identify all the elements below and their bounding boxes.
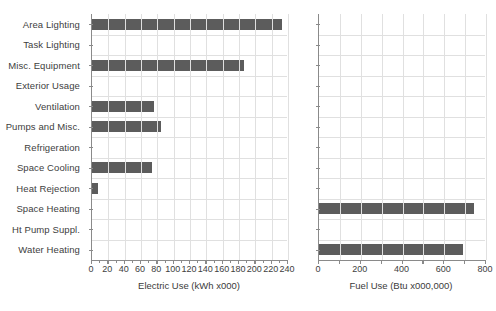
gridline-horizontal bbox=[92, 158, 287, 159]
axis-tick-label: 240 bbox=[279, 264, 294, 274]
electric-use-panel: Area LightingTask LightingMisc. Equipmen… bbox=[0, 0, 296, 311]
gridline-horizontal bbox=[92, 117, 287, 118]
gridline-horizontal bbox=[319, 240, 485, 241]
axis-tick-label: 400 bbox=[394, 264, 409, 274]
gridline-horizontal bbox=[92, 35, 287, 36]
category-tick bbox=[316, 188, 320, 189]
category-tick bbox=[316, 86, 320, 87]
plot-area-fuel bbox=[318, 14, 485, 260]
gridline-horizontal bbox=[319, 137, 485, 138]
gridline-horizontal bbox=[92, 178, 287, 179]
category-tick bbox=[89, 45, 93, 46]
category-tick bbox=[89, 127, 93, 128]
category-tick bbox=[89, 229, 93, 230]
gridline-horizontal bbox=[92, 76, 287, 77]
gridline-horizontal bbox=[92, 137, 287, 138]
category-tick bbox=[89, 250, 93, 251]
axis-tick-minor bbox=[132, 260, 133, 263]
bar bbox=[92, 19, 282, 30]
footer-strip bbox=[8, 301, 488, 311]
gridline-horizontal bbox=[319, 178, 485, 179]
axis-tick-label: 800 bbox=[477, 264, 492, 274]
axis-tick-label: 200 bbox=[247, 264, 262, 274]
category-tick bbox=[316, 106, 320, 107]
category-label: Space Heating bbox=[0, 199, 86, 220]
gridline-horizontal bbox=[319, 158, 485, 159]
category-tick bbox=[89, 86, 93, 87]
category-tick bbox=[316, 209, 320, 210]
axis-tick-minor bbox=[246, 260, 247, 263]
axis-tick-minor bbox=[279, 260, 280, 263]
axis-tick-minor bbox=[165, 260, 166, 263]
category-tick bbox=[316, 45, 320, 46]
gridline-horizontal bbox=[319, 35, 485, 36]
bar bbox=[92, 60, 244, 71]
axis-tick-minor bbox=[214, 260, 215, 263]
axis-title-electric: Electric Use (kWh x000) bbox=[138, 280, 240, 291]
bar bbox=[319, 203, 474, 214]
category-tick bbox=[316, 65, 320, 66]
gridline-horizontal bbox=[319, 55, 485, 56]
gridline-horizontal bbox=[319, 117, 485, 118]
axis-tick-label: 200 bbox=[352, 264, 367, 274]
axis-tick-label: 140 bbox=[198, 264, 213, 274]
axis-tick-label: 220 bbox=[263, 264, 278, 274]
axis-tick-label: 0 bbox=[88, 264, 93, 274]
axis-tick-label: 60 bbox=[135, 264, 145, 274]
axis-tick-label: 0 bbox=[315, 264, 320, 274]
axis-tick-label: 180 bbox=[230, 264, 245, 274]
category-tick bbox=[89, 188, 93, 189]
axis-tick-minor bbox=[230, 260, 231, 263]
gridline-horizontal bbox=[92, 219, 287, 220]
category-label: Heat Rejection bbox=[0, 178, 86, 199]
gridline-horizontal bbox=[319, 76, 485, 77]
category-label: Refrigeration bbox=[0, 137, 86, 158]
category-label: Water Heating bbox=[0, 240, 86, 261]
category-label: Ht Pump Suppl. bbox=[0, 219, 86, 240]
category-tick bbox=[316, 250, 320, 251]
value-tick-labels-fuel: 0200400600800 bbox=[318, 264, 485, 276]
category-tick bbox=[89, 147, 93, 148]
category-tick bbox=[316, 147, 320, 148]
energy-end-use-figure: Area LightingTask LightingMisc. Equipmen… bbox=[0, 0, 496, 311]
axis-tick-label: 120 bbox=[181, 264, 196, 274]
gridline-horizontal bbox=[92, 240, 287, 241]
category-tick bbox=[89, 65, 93, 66]
category-tick bbox=[89, 168, 93, 169]
bar bbox=[92, 121, 161, 132]
category-tick bbox=[89, 24, 93, 25]
axis-tick-label: 160 bbox=[214, 264, 229, 274]
gridline-horizontal bbox=[319, 96, 485, 97]
gridline-horizontal bbox=[319, 219, 485, 220]
bar bbox=[92, 101, 154, 112]
fuel-use-panel: 0200400600800 Fuel Use (Btu x000,000) bbox=[296, 0, 496, 311]
category-tick bbox=[316, 229, 320, 230]
axis-tick-label: 600 bbox=[436, 264, 451, 274]
axis-tick-label: 20 bbox=[102, 264, 112, 274]
gridline-horizontal bbox=[92, 199, 287, 200]
axis-tick-minor bbox=[181, 260, 182, 263]
category-axis-left: Area LightingTask LightingMisc. Equipmen… bbox=[0, 14, 86, 260]
value-axis-electric bbox=[91, 260, 287, 261]
bar bbox=[92, 183, 98, 194]
axis-tick-label: 80 bbox=[151, 264, 161, 274]
gridline-horizontal bbox=[92, 55, 287, 56]
axis-tick-minor bbox=[148, 260, 149, 263]
value-tick-labels-electric: 020406080100120140160180200220240 bbox=[91, 264, 287, 276]
gridline-horizontal bbox=[92, 96, 287, 97]
category-label: Pumps and Misc. bbox=[0, 117, 86, 138]
axis-tick-minor bbox=[263, 260, 264, 263]
category-tick bbox=[316, 127, 320, 128]
category-tick bbox=[316, 24, 320, 25]
category-label: Ventilation bbox=[0, 96, 86, 117]
axis-tick-minor bbox=[197, 260, 198, 263]
category-label: Exterior Usage bbox=[0, 76, 86, 97]
axis-tick-minor bbox=[116, 260, 117, 263]
category-tick bbox=[316, 168, 320, 169]
category-label: Misc. Equipment bbox=[0, 55, 86, 76]
gridline-vertical bbox=[486, 14, 487, 260]
category-label: Space Cooling bbox=[0, 158, 86, 179]
gridline-horizontal bbox=[319, 199, 485, 200]
category-label: Area Lighting bbox=[0, 14, 86, 35]
axis-tick-label: 40 bbox=[119, 264, 129, 274]
